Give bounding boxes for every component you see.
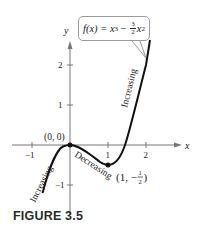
y-axis-label: y bbox=[63, 25, 69, 36]
function-label-fraction: 32 bbox=[130, 21, 136, 36]
x-tick-label-2: 2 bbox=[144, 150, 149, 160]
minimum-point-label: (1, − 1 2 ) bbox=[116, 169, 148, 185]
function-label-callout: f(x) = x3 − 32x2 bbox=[78, 16, 150, 41]
y-tick-label-2: 2 bbox=[58, 60, 63, 70]
annotation-increasing-left: Increasing bbox=[28, 164, 55, 204]
y-tick-label-neg1: −1 bbox=[55, 180, 65, 190]
x-tick-label-1: 1 bbox=[106, 150, 111, 160]
function-label-prefix: f(x) = x bbox=[83, 23, 115, 34]
figure-caption: FIGURE 3.5 bbox=[13, 209, 83, 223]
svg-text:): ) bbox=[144, 171, 148, 184]
origin-point-marker bbox=[68, 143, 73, 148]
function-label-exp2: 2 bbox=[141, 25, 145, 33]
x-axis-label: x bbox=[184, 140, 190, 151]
x-axis-arrow-icon bbox=[174, 143, 182, 148]
svg-text:(1, −: (1, − bbox=[116, 171, 137, 184]
function-label-minus: − bbox=[118, 23, 129, 34]
svg-text:1: 1 bbox=[139, 169, 142, 176]
callout-pointer bbox=[132, 41, 146, 58]
y-tick-label-1: 1 bbox=[58, 100, 63, 110]
origin-point-label: (0, 0) bbox=[44, 132, 65, 143]
x-tick-label-neg1: −1 bbox=[25, 150, 35, 160]
svg-text:2: 2 bbox=[139, 178, 142, 185]
y-axis-arrow-icon bbox=[68, 41, 73, 49]
